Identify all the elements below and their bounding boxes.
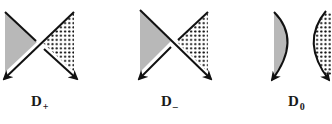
label-subscript: – (173, 101, 178, 112)
label-d-plus: D+ (31, 93, 49, 110)
panel-d-minus (139, 10, 211, 79)
label-d-zero: D0 (288, 93, 305, 110)
label-main: D (31, 93, 42, 109)
dotted-region (177, 12, 208, 72)
dotted-region (314, 12, 332, 76)
label-subscript: + (43, 101, 49, 112)
skein-relation-figure: D+ D– D0 (0, 0, 332, 124)
label-d-minus: D– (161, 93, 178, 110)
label-main: D (161, 93, 172, 109)
label-main: D (288, 93, 299, 109)
panel-d-zero (272, 11, 332, 80)
label-subscript: 0 (300, 101, 305, 112)
panel-d-plus (4, 12, 77, 79)
